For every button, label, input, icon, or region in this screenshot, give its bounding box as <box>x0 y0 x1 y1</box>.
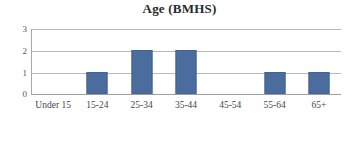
bar-slot <box>252 29 296 95</box>
bar <box>264 72 285 94</box>
y-axis-tick-labels: 3 2 1 0 <box>0 29 27 95</box>
bar-slot <box>297 29 341 95</box>
bar-slot <box>31 29 75 95</box>
bar-slot <box>164 29 208 95</box>
y-tick-label-1: 1 <box>5 69 27 78</box>
x-tick-label: 45-54 <box>208 99 252 111</box>
x-axis-tick-labels: Under 1515-2425-3435-4445-5455-6465+ <box>31 99 341 139</box>
x-tick-label: 65+ <box>297 99 341 111</box>
bars-layer <box>31 29 341 95</box>
chart-title: Age (BMHS) <box>0 1 359 17</box>
x-tick-label: 55-64 <box>252 99 296 111</box>
y-tick-label-2: 2 <box>5 47 27 56</box>
bar <box>87 72 108 94</box>
bar <box>175 50 196 94</box>
x-tick-label: 35-44 <box>164 99 208 111</box>
x-tick-label: 15-24 <box>75 99 119 111</box>
bar <box>308 72 329 94</box>
y-tick-label-0: 0 <box>5 90 27 99</box>
bar <box>131 50 152 94</box>
bar-slot <box>120 29 164 95</box>
bar-chart-figure: Age (BMHS) 3 2 1 0 Under 1515-2425-3435-… <box>0 0 359 141</box>
x-tick-label: 25-34 <box>120 99 164 111</box>
bar-slot <box>75 29 119 95</box>
bar-slot <box>208 29 252 95</box>
x-tick-label: Under 15 <box>31 99 75 111</box>
y-tick-label-3: 3 <box>5 25 27 34</box>
